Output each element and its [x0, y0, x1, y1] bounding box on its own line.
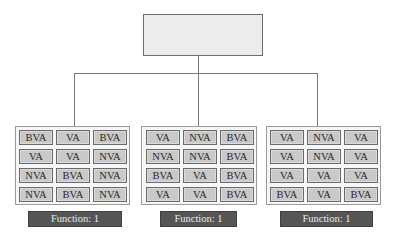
activity-cell: BVA [19, 130, 53, 145]
activity-cell: NVA [307, 130, 341, 145]
activity-cell: BVA [56, 187, 90, 202]
activity-cell: VA [146, 130, 180, 145]
root-stem-connector [198, 55, 199, 73]
drop-connector-right [317, 73, 318, 126]
activity-cell: NVA [183, 149, 217, 164]
activity-cell: BVA [220, 187, 254, 202]
activity-cell: VA [344, 130, 378, 145]
function-label-3: Function: 1 [280, 211, 373, 227]
root-node [143, 14, 263, 56]
activity-cell: VA [270, 149, 304, 164]
activity-cell: NVA [93, 149, 127, 164]
activity-cell: BVA [56, 168, 90, 183]
activity-cell: NVA [183, 130, 217, 145]
activity-cell: VA [183, 168, 217, 183]
activity-cell: BVA [93, 130, 127, 145]
activity-cell: NVA [93, 187, 127, 202]
horizontal-bus-connector [74, 73, 318, 74]
activity-cell: VA [307, 168, 341, 183]
drop-connector-left [74, 73, 75, 126]
activity-cell: NVA [93, 168, 127, 183]
activity-cell: BVA [220, 168, 254, 183]
activity-cell: NVA [19, 168, 53, 183]
activity-cell: BVA [344, 187, 378, 202]
activity-cell: VA [146, 187, 180, 202]
activity-cell: NVA [19, 187, 53, 202]
activity-cell: NVA [307, 149, 341, 164]
activity-cell: BVA [220, 149, 254, 164]
drop-connector-middle [198, 73, 199, 126]
activity-cell: VA [270, 168, 304, 183]
activity-cell: BVA [270, 187, 304, 202]
activity-cell: BVA [220, 130, 254, 145]
activity-cell: VA [344, 149, 378, 164]
activity-cell: NVA [146, 149, 180, 164]
activity-cell: VA [183, 187, 217, 202]
activity-cell: VA [56, 149, 90, 164]
activity-cell: VA [307, 187, 341, 202]
activity-cell: VA [344, 168, 378, 183]
activity-cell: VA [19, 149, 53, 164]
activity-cell: VA [56, 130, 90, 145]
function-label-2: Function: 1 [160, 211, 237, 227]
activity-cell: BVA [146, 168, 180, 183]
activity-cell: VA [270, 130, 304, 145]
function-label-1: Function: 1 [28, 211, 122, 227]
